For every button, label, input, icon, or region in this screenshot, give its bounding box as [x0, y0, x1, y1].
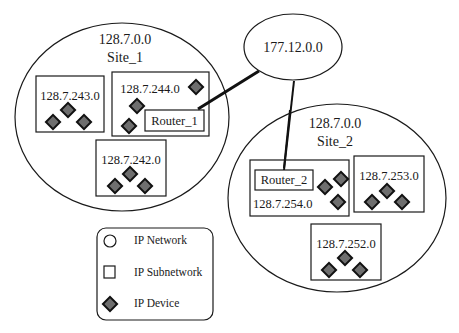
ip-device-icon — [189, 80, 203, 94]
legend-label-ip-network: IP Network — [134, 234, 187, 246]
network-diagram: 128.7.0.0 Site_1 128.7.243.0 128.7.244.0… — [0, 0, 459, 333]
legend: IP Network IP Subnetwork IP Device — [97, 228, 213, 320]
site-1-network: 128.7.0.0 Site_1 128.7.243.0 128.7.244.0… — [15, 23, 229, 211]
ip-device-icon — [46, 115, 60, 129]
ip-device-icon — [318, 180, 332, 194]
subnet-128-7-254-0: Router_2 128.7.254.0 — [250, 160, 349, 216]
legend-label-ip-device: IP Device — [134, 297, 179, 309]
legend-label-ip-subnetwork: IP Subnetwork — [134, 266, 203, 278]
subnet-128-7-253-0: 128.7.253.0 — [354, 156, 424, 212]
subnet-128-7-252-0: 128.7.252.0 — [311, 224, 381, 280]
subnet-128-7-243-0: 128.7.243.0 — [36, 76, 104, 132]
ip-device-icon — [322, 263, 336, 277]
subnet-label: 128.7.243.0 — [40, 89, 99, 103]
subnet-label: 128.7.242.0 — [101, 153, 160, 167]
ip-device-icon — [77, 115, 91, 129]
ip-device-icon — [365, 195, 379, 209]
subnet-128-7-242-0: 128.7.242.0 — [96, 140, 166, 196]
ip-device-icon — [61, 103, 75, 117]
ip-device-icon — [395, 195, 409, 209]
backbone-address: 177.12.0.0 — [263, 40, 323, 55]
site-1-network-address: 128.7.0.0 — [99, 32, 152, 47]
ip-device-icon — [338, 251, 352, 265]
subnet-label: 128.7.253.0 — [359, 169, 418, 183]
site-2-network-address: 128.7.0.0 — [309, 116, 362, 131]
ip-device-icon — [331, 195, 345, 209]
ip-device-icon — [380, 184, 394, 198]
subnet-box — [354, 156, 424, 212]
site-2-network: 128.7.0.0 Site_2 Router_2 128.7.254.0 12… — [228, 104, 446, 292]
ip-device-icon — [353, 263, 367, 277]
router-1-label: Router_1 — [151, 114, 198, 128]
ip-device-icon — [122, 119, 136, 133]
ip-device-icon — [130, 99, 144, 113]
ip-device-icon — [334, 172, 348, 186]
site-1-name: Site_1 — [107, 50, 143, 65]
subnet-label: 128.7.252.0 — [316, 237, 375, 251]
subnet-128-7-244-0: 128.7.244.0 Router_1 — [112, 72, 209, 136]
router-2-label: Router_2 — [261, 173, 308, 187]
site-2-name: Site_2 — [317, 134, 353, 149]
subnet-label: 128.7.254.0 — [253, 197, 312, 211]
subnet-label: 128.7.244.0 — [120, 82, 179, 96]
link-router-1-backbone — [198, 71, 259, 109]
